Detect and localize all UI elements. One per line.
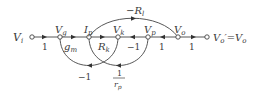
node-vi bbox=[30, 35, 34, 39]
arrow-icon bbox=[160, 35, 165, 39]
arrow-icon bbox=[191, 35, 196, 39]
node-label-vout: Vo′=Vo bbox=[213, 32, 247, 45]
gain-ip-vo: −Rl bbox=[126, 5, 144, 18]
gain-vo-vout: 1 bbox=[189, 42, 195, 52]
arrow-icon bbox=[71, 35, 76, 39]
gain-vp-vk: −1 bbox=[127, 42, 140, 52]
node-label-vi: Vi bbox=[13, 31, 23, 45]
edge-ip-vo bbox=[89, 18, 178, 37]
svg-text:rp: rp bbox=[114, 80, 122, 91]
arrow-icon bbox=[130, 35, 135, 39]
gain-vk-vg: −1 bbox=[78, 72, 91, 82]
arrow-icon bbox=[87, 63, 92, 67]
gain-vi-vg: 1 bbox=[42, 42, 48, 52]
arrow-icon bbox=[116, 63, 121, 67]
arrow-icon bbox=[42, 35, 47, 39]
gain-ip-vk: Rk bbox=[97, 41, 110, 54]
node-vo bbox=[176, 35, 180, 39]
node-label-ip: Ip bbox=[83, 24, 93, 37]
gain-vp-ip: 1 rp bbox=[113, 69, 125, 91]
signal-flow-graph: Vi Vg Ip Vk Vp Vo Vo′=Vo 1 gm Rk −1 1 1 … bbox=[0, 0, 260, 100]
gain-vo-vp: 1 bbox=[159, 42, 165, 52]
node-label-vp: Vp bbox=[144, 24, 156, 37]
arrow-icon bbox=[131, 16, 136, 20]
node-vout bbox=[205, 35, 209, 39]
node-vp bbox=[146, 35, 150, 39]
arrow-icon bbox=[100, 35, 105, 39]
gain-vg-ip: gm bbox=[64, 41, 77, 54]
svg-text:1: 1 bbox=[117, 69, 122, 78]
